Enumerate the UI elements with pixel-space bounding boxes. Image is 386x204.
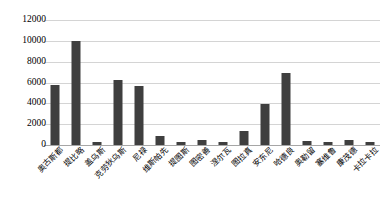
x-axis-tick-label: 尼禄 bbox=[131, 146, 148, 163]
bar-slot bbox=[44, 20, 65, 145]
bar-slot bbox=[275, 20, 296, 145]
bar bbox=[71, 41, 80, 145]
bar bbox=[239, 131, 248, 145]
bar-slot bbox=[149, 20, 170, 145]
bar bbox=[50, 85, 59, 145]
x-axis-tick-label: 提图斯 bbox=[168, 146, 191, 169]
bar-slot bbox=[86, 20, 107, 145]
bar-slot bbox=[170, 20, 191, 145]
plot-area bbox=[44, 20, 380, 145]
y-axis-tick-label: 8000 bbox=[6, 57, 46, 67]
x-axis-tick-label: 图密善 bbox=[189, 146, 212, 169]
x-axis-tick-label: 图拉真 bbox=[231, 146, 254, 169]
bar bbox=[260, 104, 269, 145]
bar-chart: 020004000600080001000012000 奥古斯都提比略盖乌斯克劳… bbox=[0, 0, 386, 204]
bar-slot bbox=[128, 20, 149, 145]
bar-slot bbox=[212, 20, 233, 145]
bar bbox=[134, 86, 143, 145]
bar-slot bbox=[65, 20, 86, 145]
bar-slot bbox=[254, 20, 275, 145]
bar-slot bbox=[338, 20, 359, 145]
x-axis-tick-label: 涅尔瓦 bbox=[210, 146, 233, 169]
y-axis-tick-label: 12000 bbox=[6, 15, 46, 25]
bar-series bbox=[44, 20, 380, 145]
y-axis-tick-label: 2000 bbox=[6, 119, 46, 129]
bar-slot bbox=[359, 20, 380, 145]
bar-slot bbox=[317, 20, 338, 145]
y-axis-tick-label: 0 bbox=[6, 140, 46, 150]
y-axis-tick-label: 6000 bbox=[6, 78, 46, 88]
x-axis-tick-label: 哈德良 bbox=[273, 146, 296, 169]
bar bbox=[113, 80, 122, 145]
bar-slot bbox=[296, 20, 317, 145]
bar bbox=[155, 136, 164, 145]
y-axis-tick-label: 10000 bbox=[6, 36, 46, 46]
bar-slot bbox=[233, 20, 254, 145]
x-axis-tick-label: 塞维鲁 bbox=[315, 146, 338, 169]
x-axis-tick-label: 奥勒留 bbox=[294, 146, 317, 169]
y-axis-tick-label: 4000 bbox=[6, 98, 46, 108]
x-axis: 奥古斯都提比略盖乌斯克劳狄乌斯尼禄维斯帕先提图斯图密善涅尔瓦图拉真安东尼哈德良奥… bbox=[44, 146, 380, 204]
bar bbox=[281, 73, 290, 145]
bar-slot bbox=[107, 20, 128, 145]
x-axis-tick-label: 提比略 bbox=[63, 146, 86, 169]
x-axis-tick-label: 安东尼 bbox=[252, 146, 275, 169]
bar-slot bbox=[191, 20, 212, 145]
x-axis-tick-label: 奥古斯都 bbox=[36, 146, 64, 174]
